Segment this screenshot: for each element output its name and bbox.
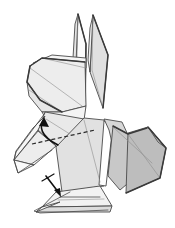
- origami-rabbit-illustration: [0, 0, 175, 228]
- origami-diagram-figure: Origami rabbit folding step Valley fold …: [0, 0, 175, 228]
